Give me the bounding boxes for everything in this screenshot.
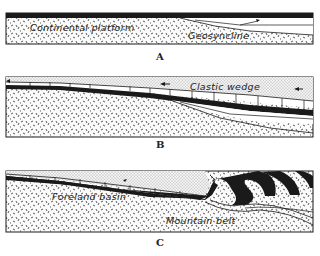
caption-a: A — [155, 51, 164, 62]
label-foreland-basin: Foreland basin — [52, 191, 126, 202]
caption-c: C — [156, 237, 164, 248]
caption-b: B — [156, 139, 164, 150]
label-geosyncline: Geosyncline — [188, 30, 249, 41]
geology-diagram: Continental platform Geosyncline A Clast… — [0, 0, 320, 256]
panel-a: Continental platform Geosyncline A — [6, 13, 313, 62]
label-mountain-belt: Mountain belt — [166, 215, 236, 226]
label-clastic-wedge: Clastic wedge — [190, 81, 260, 92]
panel-c: Foreland basin Mountain belt C — [6, 171, 313, 248]
panel-b: Clastic wedge B — [6, 77, 313, 150]
label-continental-platform: Continental platform — [30, 22, 134, 33]
